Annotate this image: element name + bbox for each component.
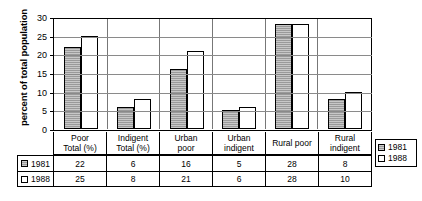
gridline [54, 93, 372, 94]
table-cell: 8 [319, 156, 371, 171]
table-cell: 8 [107, 172, 160, 186]
table-row-label: 1988 [18, 172, 54, 186]
gridline [54, 37, 372, 38]
table-cell: 6 [107, 156, 160, 171]
category-label: PoorTotal (%) [54, 132, 107, 154]
legend-label: 1981 [388, 142, 407, 153]
bar-1988 [187, 51, 204, 129]
bar-1981 [170, 69, 187, 129]
series-swatch-icon [21, 160, 28, 167]
bar-1988 [292, 24, 309, 129]
bar-1988 [81, 36, 98, 129]
y-tick-label: 25 [37, 32, 47, 41]
table-cell: 16 [160, 156, 213, 171]
legend-item: 1981 [378, 142, 414, 153]
category-label-row: PoorTotal (%)IndigentTotal (%)UrbanpoorU… [53, 132, 372, 155]
table-cell: 6 [213, 172, 266, 186]
y-tick-label: 0 [42, 126, 47, 135]
category-label: Urbanpoor [160, 132, 213, 154]
table-cell: 25 [54, 172, 107, 186]
table-cell: 5 [213, 156, 266, 171]
bar-1988 [134, 99, 151, 129]
plot-area-wrapper: 051015202530 [28, 18, 372, 134]
gridline [54, 18, 372, 19]
category-label: Rural poor [266, 132, 319, 154]
y-tick-label: 30 [37, 14, 47, 23]
table-row: 1981226165288 [17, 155, 372, 171]
table-cell: 10 [319, 172, 371, 186]
legend-swatch-icon [378, 155, 385, 162]
gridline [54, 55, 372, 56]
y-tick-label: 15 [37, 70, 47, 79]
bar-1988 [239, 107, 256, 129]
y-axis-ticks: 051015202530 [28, 18, 50, 131]
y-tick-label: 5 [42, 107, 47, 116]
category-label: IndigentTotal (%) [107, 132, 160, 154]
table-cell: 21 [160, 172, 213, 186]
y-tick-label: 20 [37, 51, 47, 60]
y-axis-title: percent of total population [18, 0, 29, 143]
bar-1981 [275, 24, 292, 129]
legend-swatch-icon [378, 144, 385, 151]
chart-figure: percent of total population 051015202530… [0, 0, 422, 201]
gridline [54, 74, 372, 75]
y-tick-label: 10 [37, 88, 47, 97]
bar-1981 [64, 47, 81, 129]
table-cell: 22 [54, 156, 107, 171]
table-row-label: 1981 [18, 156, 54, 171]
data-table: 198122616528819882582162810 [17, 155, 372, 187]
bar-1981 [117, 107, 134, 129]
series-swatch-icon [21, 176, 28, 183]
legend-label: 1988 [388, 153, 407, 164]
bar-1981 [222, 110, 239, 129]
table-cell: 28 [266, 156, 319, 171]
chart-legend: 19811988 [375, 139, 417, 167]
bar-1981 [328, 99, 345, 129]
category-label: Urbanindigent [213, 132, 266, 154]
legend-item: 1988 [378, 153, 414, 164]
table-row: 19882582162810 [17, 171, 372, 187]
table-row-label-text: 1988 [31, 174, 50, 184]
bar-1988 [345, 92, 362, 129]
gridline [54, 111, 372, 112]
category-label: Ruralindigent [319, 132, 371, 154]
table-row-label-text: 1981 [31, 159, 50, 169]
table-cell: 28 [266, 172, 319, 186]
plot-area [53, 18, 372, 131]
